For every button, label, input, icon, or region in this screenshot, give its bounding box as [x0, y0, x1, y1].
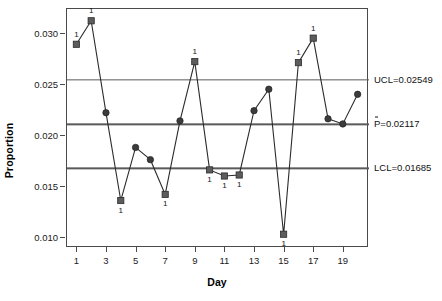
- violation-flag-label: 1: [277, 239, 291, 248]
- x-tick-mark: [106, 247, 107, 252]
- control-limit-label-lcl: LCL=0.01685: [374, 162, 431, 173]
- x-tick-label: 7: [152, 255, 178, 266]
- x-tick-mark: [224, 247, 225, 252]
- y-tick-mark: [60, 33, 65, 34]
- plot-area: [66, 8, 368, 247]
- violation-flag-label: 1: [306, 24, 320, 33]
- x-tick-label: 9: [182, 255, 208, 266]
- p-chart-figure: Proportion Day 0.0100.0150.0200.0250.030…: [0, 0, 442, 301]
- x-tick-mark: [195, 247, 196, 252]
- violation-flag-label: 1: [203, 175, 217, 184]
- violation-flag-label: 1: [158, 199, 172, 208]
- x-tick-label: 5: [123, 255, 149, 266]
- control-limit-label-cl: P=0.02117: [374, 118, 420, 129]
- violation-flag-label: 1: [114, 206, 128, 215]
- violation-flag-label: 1: [232, 180, 246, 189]
- control-limit-line-lcl: [67, 168, 369, 169]
- y-tick-mark: [60, 237, 65, 238]
- x-axis-title: Day: [66, 276, 368, 288]
- y-tick-mark: [60, 186, 65, 187]
- x-tick-label: 1: [63, 255, 89, 266]
- pbar-symbol: P: [374, 118, 380, 129]
- x-tick-mark: [313, 247, 314, 252]
- plot-inner: [67, 9, 367, 246]
- x-tick-mark: [76, 247, 77, 252]
- x-tick-label: 17: [300, 255, 326, 266]
- y-axis-title: Proportion: [22, 0, 44, 301]
- violation-flag-label: 1: [188, 47, 202, 56]
- x-tick-label: 3: [93, 255, 119, 266]
- y-tick-mark: [60, 84, 65, 85]
- violation-flag-label: 1: [291, 48, 305, 57]
- y-tick-label: 0.015: [12, 181, 58, 192]
- violation-flag-label: 1: [69, 30, 83, 39]
- x-tick-mark: [165, 247, 166, 252]
- x-tick-mark: [254, 247, 255, 252]
- violation-flag-label: 1: [217, 181, 231, 190]
- y-tick-label: 0.010: [12, 232, 58, 243]
- control-limit-line-cl: [67, 124, 369, 125]
- x-tick-mark: [343, 247, 344, 252]
- y-tick-label: 0.025: [12, 79, 58, 90]
- y-tick-label: 0.020: [12, 130, 58, 141]
- x-tick-mark: [136, 247, 137, 252]
- control-limit-value: =0.02117: [380, 118, 419, 129]
- control-limit-label-ucl: UCL=0.02549: [374, 74, 433, 85]
- violation-flag-label: 1: [84, 6, 98, 15]
- x-tick-label: 11: [211, 255, 237, 266]
- y-tick-mark: [60, 135, 65, 136]
- x-tick-label: 13: [241, 255, 267, 266]
- y-tick-label: 0.030: [12, 28, 58, 39]
- control-limit-line-ucl: [67, 79, 369, 80]
- x-tick-label: 19: [330, 255, 356, 266]
- x-tick-label: 15: [271, 255, 297, 266]
